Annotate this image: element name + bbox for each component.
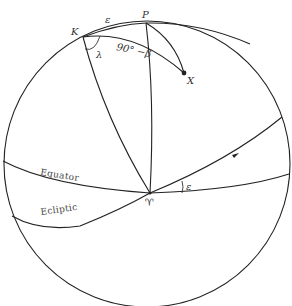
- label-epsilon-angle: ε: [186, 181, 191, 192]
- label-colatitude: 90° −β: [116, 41, 153, 59]
- object-x-dot: [182, 71, 187, 76]
- equinox-dot: [149, 192, 152, 195]
- label-lambda: λ: [95, 49, 102, 60]
- celestial-sphere-diagram: K P X ε λ 90° −β Equator Ecliptic ♈ ε: [0, 0, 292, 306]
- epsilon-angle-arc: [182, 181, 183, 193]
- label-k: K: [70, 26, 79, 37]
- meridian-k-equinox: [83, 37, 150, 193]
- sphere-outline: [4, 21, 290, 306]
- label-ecliptic: Ecliptic: [40, 202, 78, 217]
- label-x: X: [186, 75, 195, 86]
- lambda-angle-arc: [85, 36, 100, 49]
- label-equinox-symbol: ♈: [145, 197, 154, 208]
- ecliptic-direction-arrow-icon: [232, 153, 239, 158]
- label-epsilon-top: ε: [105, 14, 110, 25]
- label-p: P: [141, 9, 149, 20]
